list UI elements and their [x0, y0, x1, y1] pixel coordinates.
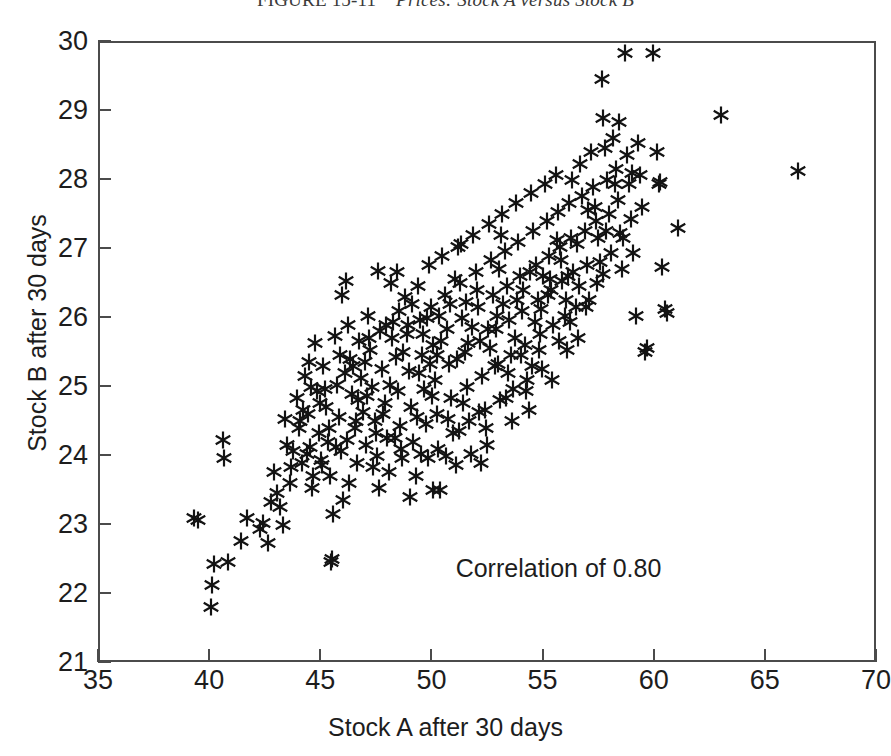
x-tick-label: 35 — [83, 663, 113, 697]
y-tick-mark — [98, 454, 111, 456]
y-tick-mark — [98, 109, 111, 111]
x-tick-label: 50 — [416, 663, 446, 697]
figure-caption: Prices: Stock A versus Stock B — [396, 0, 634, 10]
x-tick-mark — [542, 649, 544, 662]
x-tick-mark — [319, 649, 321, 662]
y-tick-mark — [98, 385, 111, 387]
x-tick-mark — [430, 649, 432, 662]
x-tick-label: 55 — [528, 663, 558, 697]
x-tick-label: 60 — [639, 663, 669, 697]
x-tick-label: 70 — [861, 663, 891, 697]
x-tick-mark — [208, 649, 210, 662]
x-tick-mark — [764, 649, 766, 662]
figure-number: FIGURE 15-11 — [257, 0, 376, 10]
y-tick-mark — [98, 247, 111, 249]
x-tick-mark — [875, 649, 877, 662]
x-axis-title: Stock A after 30 days — [0, 712, 891, 742]
y-tick-mark — [98, 178, 111, 180]
y-tick-label: 21 — [44, 645, 88, 679]
y-tick-mark — [98, 523, 111, 525]
correlation-annotation: Correlation of 0.80 — [0, 552, 891, 584]
x-tick-label: 40 — [194, 663, 224, 697]
y-tick-mark — [98, 40, 111, 42]
x-tick-label: 45 — [305, 663, 335, 697]
x-tick-label: 65 — [750, 663, 780, 697]
y-tick-mark — [98, 316, 111, 318]
figure-title: FIGURE 15-11 Prices: Stock A versus Stoc… — [0, 0, 891, 11]
y-tick-mark — [98, 592, 111, 594]
y-axis-title: Stock B after 30 days — [22, 33, 52, 633]
x-tick-mark — [97, 649, 99, 662]
x-tick-mark — [653, 649, 655, 662]
page-bottom-margin — [0, 744, 891, 756]
